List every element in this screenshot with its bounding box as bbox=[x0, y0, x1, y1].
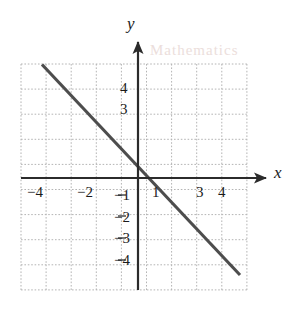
y-axis bbox=[133, 41, 144, 290]
x-tick-label-4: 4 bbox=[218, 184, 226, 201]
x-tick-label-neg4: −4 bbox=[27, 184, 43, 201]
y-axis-label: y bbox=[127, 14, 135, 34]
y-tick-label-4: 4 bbox=[120, 80, 128, 97]
y-axis-tick-marks bbox=[118, 195, 126, 260]
x-tick-label-3: 3 bbox=[196, 184, 204, 201]
y-tick-label-neg3: −3 bbox=[114, 230, 130, 247]
y-tick-label-3: 3 bbox=[120, 101, 128, 118]
y-tick-label-neg2: −2 bbox=[114, 209, 130, 226]
coordinate-plane-figure bbox=[0, 0, 299, 318]
y-tick-label-neg4: −4 bbox=[114, 252, 130, 269]
x-tick-label-1: 1 bbox=[152, 184, 160, 201]
y-tick-label-neg1: −1 bbox=[114, 187, 130, 204]
x-axis-label: x bbox=[274, 163, 282, 183]
x-tick-label-neg2: −2 bbox=[77, 184, 93, 201]
